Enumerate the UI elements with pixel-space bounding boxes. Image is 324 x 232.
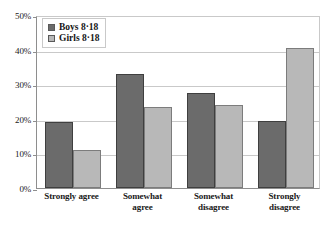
y-axis-tick-label: 30% (15, 80, 31, 90)
legend-swatch-icon (48, 35, 55, 42)
bar-chart-figure: 0%10%20%30%40%50% Boys 8·18Girls 8·18 St… (0, 0, 324, 232)
bar-girls-1 (144, 107, 172, 188)
legend-label: Girls 8·18 (59, 33, 99, 44)
bar-boys-1 (116, 74, 144, 188)
bar-boys-3 (258, 121, 286, 188)
bar-girls-3 (286, 48, 314, 188)
bar-boys-2 (187, 93, 215, 188)
bar-boys-0 (45, 122, 73, 188)
y-axis-tick-label: 20% (15, 115, 31, 125)
x-axis-tick-label: Somewhatdisagree (178, 191, 249, 213)
bar-girls-2 (215, 105, 243, 188)
x-axis-tick-label-line: agree (107, 202, 178, 213)
x-axis-tick-label: Somewhatagree (107, 191, 178, 213)
x-axis-tick-label-line: Strongly agree (36, 191, 107, 202)
legend-swatch-icon (48, 24, 55, 31)
legend-item-girls: Girls 8·18 (48, 33, 99, 44)
x-axis-tick-label-line: Somewhat (107, 191, 178, 202)
legend-label: Boys 8·18 (59, 22, 98, 33)
x-axis-tick-label: Stronglydisagree (249, 191, 320, 213)
y-axis-tick-label: 40% (15, 46, 31, 56)
x-axis-tick-label-line: Strongly (249, 191, 320, 202)
y-axis: 0%10%20%30%40%50% (0, 0, 36, 232)
x-axis-tick-label-line: Somewhat (178, 191, 249, 202)
x-axis-tick-label-line: disagree (178, 202, 249, 213)
y-axis-tick-label: 0% (19, 184, 31, 194)
legend-item-boys: Boys 8·18 (48, 22, 99, 33)
x-axis-tick-label: Strongly agree (36, 191, 107, 202)
y-axis-tick-label: 10% (15, 149, 31, 159)
x-axis-tick-label-line: disagree (249, 202, 320, 213)
x-axis: Strongly agreeSomewhatagreeSomewhatdisag… (36, 191, 320, 231)
y-axis-tick-label: 50% (15, 11, 31, 21)
chart-legend: Boys 8·18Girls 8·18 (42, 18, 106, 48)
bar-girls-0 (73, 150, 101, 188)
